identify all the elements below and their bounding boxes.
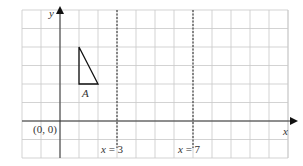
line-x3-label: x = 3 [101, 144, 123, 155]
coordinate-grid [0, 0, 303, 166]
shape-a-label: A [82, 88, 89, 99]
y-axis-label: y [49, 8, 54, 19]
origin-label: (0, 0) [33, 124, 57, 135]
grid-lines [22, 10, 288, 158]
x-axis-label: x [283, 126, 288, 137]
line-x7-label: x = 7 [178, 144, 200, 155]
